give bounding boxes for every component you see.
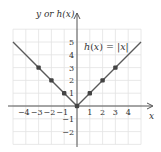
data-point <box>113 65 117 69</box>
x-tick-label: −2 <box>44 108 56 117</box>
data-point <box>49 78 53 82</box>
y-tick-label: 4 <box>69 51 74 60</box>
y-tick-label: 5 <box>69 38 74 47</box>
data-point <box>100 78 104 82</box>
function-equation-label: h(x) = |x| <box>84 41 129 53</box>
x-tick-label: −4 <box>18 108 30 117</box>
data-point <box>75 104 79 108</box>
x-tick-label: 3 <box>113 108 118 117</box>
x-tick-label: −3 <box>31 108 43 117</box>
y-axis-label: y or h(x) <box>35 9 75 19</box>
data-point <box>36 65 40 69</box>
y-tick-label: 2 <box>69 76 74 85</box>
x-tick-label: 4 <box>126 108 131 117</box>
y-tick-label: −2 <box>62 128 74 137</box>
x-tick-label: 1 <box>87 108 92 117</box>
x-axis-label: x <box>149 111 154 121</box>
y-tick-label: 1 <box>69 89 74 98</box>
y-tick-label: −1 <box>62 115 74 124</box>
absolute-value-chart: y or h(x) x −4−3−2−11234 54321−1−2 h(x) … <box>0 0 161 152</box>
x-tick-labels: −4−3−2−11234 <box>18 108 131 117</box>
y-tick-label: 3 <box>69 64 74 73</box>
data-point <box>62 91 66 95</box>
x-tick-label: 2 <box>100 108 105 117</box>
data-point <box>88 91 92 95</box>
